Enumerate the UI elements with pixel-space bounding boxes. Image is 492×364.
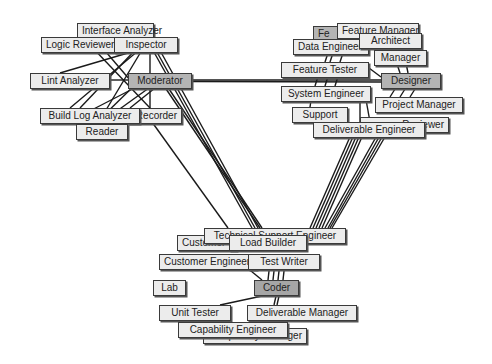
node-deliverable-engineer[interactable]: Deliverable Engineer <box>313 122 425 138</box>
node-support[interactable]: Support <box>292 107 348 123</box>
node-build-log-analyzer[interactable]: Build Log Analyzer <box>40 108 140 124</box>
node-lint-analyzer[interactable]: Lint Analyzer <box>30 73 110 89</box>
node-system-engineer[interactable]: System Engineer <box>281 86 371 102</box>
node-reader[interactable]: Reader <box>76 124 128 140</box>
node-capability-engineer[interactable]: Capability Engineer <box>178 322 288 338</box>
node-load-builder[interactable]: Load Builder <box>229 235 307 251</box>
node-coder[interactable]: Coder <box>254 280 299 296</box>
node-manager[interactable]: Manager <box>374 50 427 66</box>
node-logic-reviewer[interactable]: Logic Reviewer <box>41 37 121 53</box>
node-moderator[interactable]: Moderator <box>128 73 192 89</box>
node-feature-tester[interactable]: Feature Tester <box>281 62 369 78</box>
node-architect[interactable]: Architect <box>359 33 422 49</box>
node-project-manager[interactable]: Project Manager <box>375 97 463 113</box>
node-lab[interactable]: Lab <box>153 280 186 296</box>
node-data-engineer[interactable]: Data Engineer <box>293 39 369 55</box>
node-customer-engineer[interactable]: Customer Engineer <box>159 254 257 270</box>
node-designer[interactable]: Designer <box>381 73 441 89</box>
node-inspector[interactable]: Inspector <box>114 37 178 53</box>
diagram-canvas: Interface Analyzer Logic Reviewer Inspec… <box>0 0 492 364</box>
node-deliverable-manager[interactable]: Deliverable Manager <box>247 305 357 321</box>
node-unit-tester[interactable]: Unit Tester <box>159 305 231 321</box>
node-test-writer[interactable]: Test Writer <box>248 254 320 270</box>
